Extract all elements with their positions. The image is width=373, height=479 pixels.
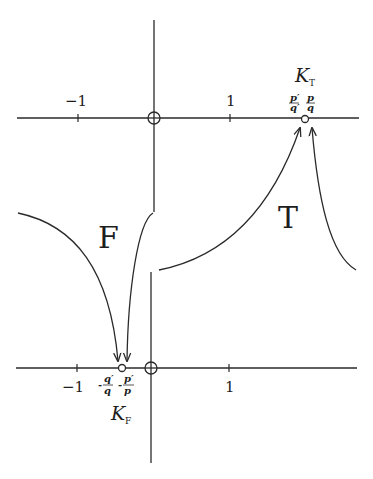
diagram-canvas: −1 1 K T p′ q′ p q T −1 1 - q′ q - p′ p — [0, 0, 373, 479]
top-axes — [17, 20, 359, 212]
kt-frac-1-den: q′ — [290, 102, 300, 113]
top-tick-label-minus-one: −1 — [65, 92, 87, 110]
kf-frac-1-den: q — [104, 385, 111, 396]
kt-point-marker — [302, 116, 309, 123]
kf-label: K F — [110, 402, 131, 426]
t-left-arrow-curve — [159, 128, 300, 270]
kf-frac-1-sign: - — [98, 379, 102, 390]
f-region-label: F — [98, 220, 119, 255]
kf-point-marker — [119, 365, 126, 372]
kf-label-sub: F — [125, 416, 131, 426]
kf-frac-1-num: q′ — [104, 373, 114, 384]
f-right-arrow-curve — [127, 213, 153, 361]
kt-label-sub: T — [309, 78, 315, 88]
kt-label: K T — [294, 64, 315, 88]
kt-frac-2-den: q — [307, 102, 314, 113]
bottom-axes — [16, 272, 357, 463]
kf-frac-2-sign: - — [118, 379, 122, 390]
kf-frac-2-den: p — [124, 385, 131, 396]
top-tick-label-one: 1 — [226, 92, 236, 110]
bottom-tick-label-minus-one: −1 — [62, 378, 84, 396]
kf-frac-2-num: p′ — [124, 373, 134, 384]
t-right-arrow-curve — [312, 128, 356, 270]
bottom-tick-label-one: 1 — [225, 378, 235, 396]
kf-fractions: - q′ q - p′ p — [98, 373, 134, 396]
t-region-label: T — [278, 200, 298, 235]
kt-fractions: p′ q′ p q — [289, 92, 315, 113]
